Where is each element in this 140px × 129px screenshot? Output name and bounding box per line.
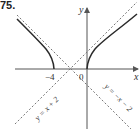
y-axis-label: y — [78, 4, 84, 15]
x-axis-label: x — [133, 71, 139, 82]
tick-label-neg4: −4 — [45, 72, 55, 82]
asymptote-positive-label: y = x + 2 — [32, 95, 60, 123]
asymptote-negative-label: y = −x − 2 — [102, 81, 134, 113]
asymptote-positive — [15, 2, 137, 124]
hyperbola-graph: y x 0 −4 y = x + 2 y = −x − 2 — [0, 0, 140, 129]
hyperbola-left-branch — [17, 19, 54, 69]
hyperbola-right-branch — [87, 14, 137, 69]
origin-label: 0 — [79, 72, 84, 82]
